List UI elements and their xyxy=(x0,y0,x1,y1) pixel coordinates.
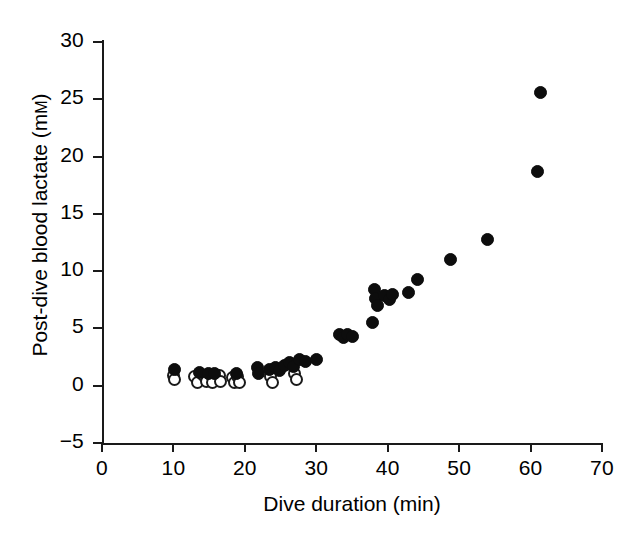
x-tick-60 xyxy=(530,443,532,452)
y-tick-0 xyxy=(93,385,102,387)
x-tick-30 xyxy=(315,443,317,452)
y-tick-5 xyxy=(93,327,102,329)
data-point xyxy=(230,367,243,380)
x-tick-label-60: 60 xyxy=(501,456,561,480)
x-tick-label-30: 30 xyxy=(286,456,346,480)
x-tick-label-40: 40 xyxy=(358,456,418,480)
y-tick-15 xyxy=(93,213,102,215)
y-axis-line xyxy=(102,40,104,443)
scatter-plot-figure: −5051015202530 010203040506070 Dive dura… xyxy=(0,0,636,537)
x-tick-40 xyxy=(387,443,389,452)
data-point xyxy=(290,373,303,386)
y-tick-20 xyxy=(93,156,102,158)
x-tick-10 xyxy=(172,443,174,452)
x-axis-title: Dive duration (min) xyxy=(102,492,602,516)
x-tick-label-0: 0 xyxy=(72,456,132,480)
data-point xyxy=(534,86,547,99)
x-tick-0 xyxy=(101,443,103,452)
x-axis-line xyxy=(102,443,602,445)
data-point xyxy=(481,233,494,246)
x-tick-label-10: 10 xyxy=(143,456,203,480)
y-axis-title-wrapper: Post-dive blood lactate (mM) xyxy=(28,15,58,435)
data-point xyxy=(386,288,399,301)
y-axis-title: Post-dive blood lactate (mM) xyxy=(28,93,51,356)
x-tick-label-70: 70 xyxy=(572,456,632,480)
y-axis-title-smallcap: M xyxy=(33,100,50,113)
data-point xyxy=(346,330,359,343)
y-axis-title-main: Post-dive blood lactate (m xyxy=(28,114,51,357)
y-axis-title-close: ) xyxy=(28,93,51,100)
x-tick-label-50: 50 xyxy=(429,456,489,480)
x-tick-50 xyxy=(458,443,460,452)
y-tick-30 xyxy=(93,41,102,43)
x-tick-70 xyxy=(601,443,603,452)
data-point xyxy=(168,363,181,376)
x-tick-20 xyxy=(244,443,246,452)
x-tick-label-20: 20 xyxy=(215,456,275,480)
data-point xyxy=(411,273,424,286)
data-point xyxy=(266,376,279,389)
y-tick-25 xyxy=(93,98,102,100)
y-tick-10 xyxy=(93,270,102,272)
